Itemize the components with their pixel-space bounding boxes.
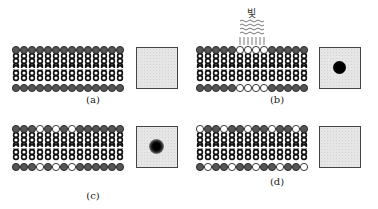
light-rays-icon — [238, 18, 268, 46]
lipid-bilayer-b — [196, 46, 308, 92]
caption-b: (b) — [262, 94, 292, 105]
fluorescence-square-a — [136, 47, 178, 89]
lipid-bilayer-d — [196, 125, 308, 171]
fluorescence-square-c — [136, 126, 178, 168]
lipid-bilayer-a — [12, 46, 124, 92]
fluorescent-spot-solid — [333, 61, 346, 74]
caption-d: (d) — [262, 176, 292, 187]
caption-c: (c) — [78, 190, 108, 201]
fluorescence-square-d — [319, 126, 361, 168]
lipid-bilayer-c — [12, 125, 124, 171]
fluorescent-spot-blurred — [149, 139, 164, 154]
fluorescence-square-b — [319, 47, 361, 89]
caption-a: (a) — [78, 94, 108, 105]
